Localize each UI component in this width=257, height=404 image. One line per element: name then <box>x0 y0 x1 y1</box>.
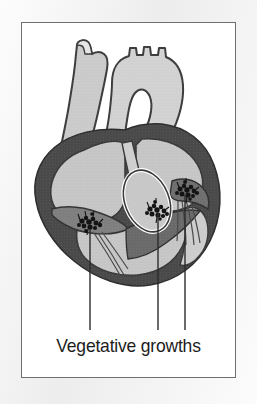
figure-panel: Vegetative growths <box>21 22 236 378</box>
heart-cutaway-illustration <box>22 23 236 378</box>
caption-label: Vegetative growths <box>31 335 227 357</box>
figure-root: Vegetative growths <box>0 0 257 404</box>
